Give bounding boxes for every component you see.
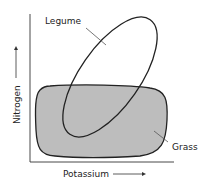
x-arrowhead-icon [142, 172, 146, 176]
legume-leader [86, 28, 106, 45]
nutrient-diagram: Legume Grass Potassium Nitrogen [0, 0, 210, 191]
grass-label: Grass [172, 142, 198, 152]
y-arrowhead-icon [14, 46, 18, 50]
grass-region [35, 85, 167, 158]
legume-label: Legume [45, 16, 82, 26]
y-axis-label: Nitrogen [12, 85, 22, 124]
x-axis-label: Potassium [63, 169, 109, 179]
